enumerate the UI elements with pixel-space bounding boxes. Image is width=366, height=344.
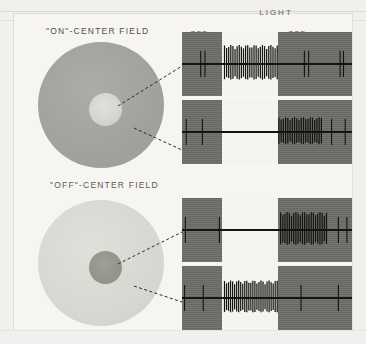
- figure-canvas: LIGHT ON OFF OFF "ON"-CENTER FIELD "OFF"…: [0, 0, 366, 344]
- spike-train: [182, 266, 352, 330]
- light-header-label: LIGHT: [196, 8, 356, 17]
- trace-row: [182, 198, 352, 262]
- trace-row: [182, 266, 352, 330]
- trace-row: [182, 100, 352, 164]
- spike-train: [182, 32, 352, 96]
- on-center-field-title: "ON"-CENTER FIELD: [46, 26, 149, 36]
- spike-train: [182, 198, 352, 262]
- off-center-field-center: [89, 251, 122, 284]
- off-center-field-title: "OFF"-CENTER FIELD: [50, 180, 159, 190]
- trace-row: [182, 32, 352, 96]
- spike-train: [182, 100, 352, 164]
- page-rule-bottom: [0, 330, 366, 331]
- on-center-field-center: [89, 93, 122, 126]
